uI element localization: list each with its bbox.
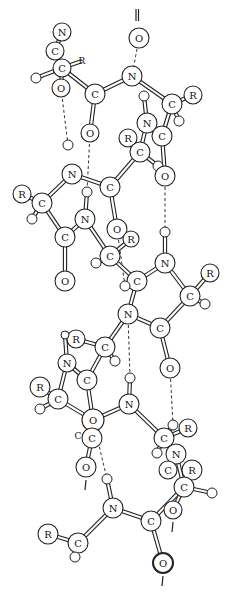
hydrogen-atom-circle [139, 91, 149, 101]
atom-o: O [76, 457, 96, 477]
atom-r: R [184, 86, 202, 104]
atom-c: C [77, 370, 97, 390]
atom-label: N [63, 358, 72, 369]
atom-h [27, 214, 37, 224]
atom-h [61, 331, 69, 339]
atom-label: C [101, 342, 109, 353]
atom-label: C [61, 232, 69, 243]
atom-o: O [160, 358, 180, 378]
atom-n: N [62, 164, 82, 184]
atom-label: O [82, 462, 90, 473]
atom-label: C [160, 433, 168, 444]
atom-h [168, 420, 178, 430]
atom-label: C [158, 131, 166, 142]
atom-label: C [38, 198, 46, 209]
atom-label: O [113, 224, 121, 235]
atom-c: C [55, 227, 75, 247]
atom-label: O [57, 83, 65, 94]
atom-label: N [161, 258, 170, 269]
hydrogen-atom-circle [31, 73, 41, 83]
atom-label: N [124, 309, 133, 320]
atom-label: C [164, 465, 172, 476]
atom-label: C [147, 516, 155, 527]
hydrogen-atom-circle [35, 404, 45, 414]
atom-label: O [135, 33, 143, 44]
atom-o: O [55, 271, 75, 291]
atom-r: R [179, 419, 197, 437]
atom-c: C [130, 142, 150, 162]
atom-h [160, 227, 170, 237]
atom-label: O [89, 415, 97, 426]
atom-n: N [118, 304, 138, 324]
atom-h [120, 281, 130, 291]
atom-c: C [162, 94, 182, 114]
atom-label: C [91, 89, 99, 100]
atom-h [174, 116, 184, 126]
atom-label: O [61, 276, 69, 287]
hydrogen-atom-circle [120, 281, 130, 291]
atom-label: O [86, 128, 94, 139]
atoms: NCCOCONOCRNCRCONRCCONCORCNCRCNCORCNCRCOC… [13, 23, 219, 573]
atom-c: C [68, 533, 88, 553]
atom-c: C [53, 59, 71, 77]
atom-c: C [100, 246, 120, 266]
atom-c: C [32, 193, 52, 213]
hydrogen-atom-circle [91, 258, 101, 268]
atom-h [63, 140, 73, 150]
atom-r: R [38, 524, 58, 544]
atom-n: N [58, 354, 76, 372]
atom-o: O [155, 166, 175, 186]
hydrogen-atom-circle [27, 214, 37, 224]
atom-n: N [75, 209, 95, 229]
atom-o: O [129, 28, 149, 48]
hydrogen-atom-circle [61, 331, 69, 339]
atom-label: C [51, 46, 59, 57]
hydrogen-atom-circle [207, 488, 217, 498]
atom-label: C [106, 251, 114, 262]
hydrogen-atom-circle [152, 448, 162, 458]
atom-o: O [153, 553, 173, 573]
atom-label: R [184, 423, 192, 434]
atom-c: C [95, 337, 115, 357]
atom-r: R [123, 231, 139, 247]
atom-label: R [127, 234, 135, 245]
atom-c: C [150, 318, 170, 338]
atom-h [91, 258, 101, 268]
atom-h [110, 356, 120, 366]
atom-label: R [44, 529, 52, 540]
atom-label: C [83, 375, 91, 386]
atom-n: N [53, 23, 71, 41]
atom-label: C [133, 276, 141, 287]
atom-label: R [36, 382, 44, 393]
atom-label: N [143, 118, 152, 129]
chain-stub [162, 576, 163, 586]
atom-c: C [180, 286, 200, 306]
atom-label: C [106, 182, 114, 193]
atom-label: R [18, 189, 26, 200]
hydrogen-atom-circle [125, 373, 135, 383]
atom-h [125, 373, 135, 383]
hydrogen-atom-circle [70, 552, 80, 562]
atom-o: O [164, 501, 182, 519]
atom-label: C [54, 394, 62, 405]
atom-c: C [82, 428, 102, 448]
hydrogen-atom-circle [168, 420, 178, 430]
atom-label: R [188, 465, 196, 476]
atom-c: C [174, 477, 194, 497]
hydrogen-atom-circle [200, 299, 210, 309]
atom-label: N [125, 399, 134, 410]
atom-c: C [46, 42, 64, 60]
alpha-helix-diagram: NCCOCONOCRNCRCONRCCONCORCNCRCNCORCNCRCOC… [0, 0, 233, 596]
atom-h [82, 187, 92, 197]
hydrogen-atom-circle [110, 356, 120, 366]
atom-c: C [141, 511, 161, 531]
atom-label: R [72, 334, 80, 345]
atom-label: C [156, 323, 164, 334]
free-atom-label: C [75, 431, 82, 441]
atom-label: O [159, 558, 167, 569]
free-atom-label: R [79, 56, 86, 66]
atom-label: O [161, 171, 169, 182]
atom-r: R [67, 330, 85, 348]
atom-label: R [206, 268, 214, 279]
atom-o: O [81, 124, 99, 142]
